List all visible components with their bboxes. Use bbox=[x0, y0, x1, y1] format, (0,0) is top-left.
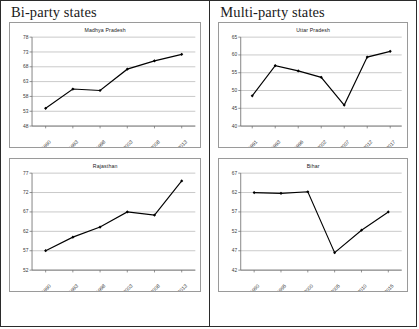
data-point-marker bbox=[297, 70, 300, 73]
y-axis-tick-label: 60 bbox=[232, 52, 238, 58]
x-axis-tick-label: 1990 bbox=[40, 283, 52, 291]
x-axis-tick-label: 2003 bbox=[122, 283, 134, 291]
y-axis-tick-label: 72 bbox=[23, 189, 29, 195]
chart-panel-uttar-pradesh: Uttar Pradesh 40455055606519911993199620… bbox=[218, 22, 408, 148]
x-axis-tick-label: 2005 bbox=[330, 283, 341, 291]
x-axis-tick-label: 2000 bbox=[303, 283, 314, 291]
figure-container: Bi-party states Madhya Pradesh 485358636… bbox=[0, 0, 417, 327]
x-axis-tick-label: 1991 bbox=[247, 139, 259, 148]
figure-columns: Bi-party states Madhya Pradesh 485358636… bbox=[1, 1, 416, 326]
y-axis-tick-label: 62 bbox=[23, 228, 29, 234]
x-axis-tick-label: 2003 bbox=[122, 139, 134, 147]
x-axis-tick-label: 1993 bbox=[67, 139, 79, 147]
group-title-bi-party: Bi-party states bbox=[1, 1, 209, 21]
y-axis-tick-label: 65 bbox=[232, 34, 238, 40]
y-axis-tick-label: 52 bbox=[232, 229, 238, 234]
y-axis-tick-label: 77 bbox=[23, 170, 29, 176]
y-axis-tick-label: 52 bbox=[23, 267, 29, 273]
x-axis-tick-label: 1995 bbox=[276, 283, 287, 291]
y-axis-tick-label: 63 bbox=[23, 78, 29, 84]
y-axis-tick-label: 62 bbox=[232, 190, 238, 195]
y-axis-tick-label: 50 bbox=[232, 87, 238, 93]
x-axis-tick-label: 2007 bbox=[339, 139, 351, 148]
chart-svg-rajasthan: 525762677277199019931998200320082013 bbox=[10, 170, 200, 291]
y-axis-tick-label: 67 bbox=[23, 209, 29, 215]
group-bi-party-states: Bi-party states Madhya Pradesh 485358636… bbox=[1, 1, 209, 326]
y-axis-tick-label: 55 bbox=[232, 69, 238, 75]
x-axis-tick-label: 2002 bbox=[316, 139, 328, 148]
x-axis-tick-label: 1993 bbox=[67, 283, 79, 291]
group-title-multi-party: Multi-party states bbox=[210, 1, 416, 21]
x-axis-tick-label: 1996 bbox=[293, 139, 305, 148]
chart-panel-madhya-pradesh: Madhya Pradesh 4853586368737819901993199… bbox=[9, 22, 201, 148]
x-axis-tick-label: 2008 bbox=[149, 139, 161, 147]
x-axis-tick-label: 2012 bbox=[362, 139, 374, 148]
chart-panel-bihar: Bihar 4247525762671990199520002005201020… bbox=[218, 158, 408, 292]
x-axis-tick-label: 2015 bbox=[384, 283, 395, 291]
x-axis-tick-label: 2008 bbox=[149, 283, 161, 291]
y-axis-tick-label: 47 bbox=[232, 248, 238, 253]
y-axis-tick-label: 58 bbox=[23, 93, 29, 99]
y-axis-tick-label: 40 bbox=[232, 123, 238, 129]
x-axis-tick-label: 1998 bbox=[95, 139, 107, 147]
chart-svg-bihar: 424752576267199019952000200520102015 bbox=[219, 170, 407, 291]
plot-area-bihar: 424752576267199019952000200520102015 bbox=[219, 170, 407, 291]
chart-svg-uttar-pradesh: 4045505560651991199319962002200720122017 bbox=[219, 34, 407, 147]
plot-area-madhya-pradesh: 48535863687378199019931998200320082013 bbox=[10, 34, 200, 147]
y-axis-tick-label: 68 bbox=[23, 63, 29, 69]
data-point-marker bbox=[153, 59, 156, 62]
y-axis-tick-label: 73 bbox=[23, 49, 29, 55]
x-axis-tick-label: 2013 bbox=[176, 283, 188, 291]
data-point-marker bbox=[180, 53, 183, 56]
x-axis-tick-label: 2010 bbox=[357, 283, 368, 291]
y-axis-tick-label: 57 bbox=[232, 210, 238, 215]
x-axis-tick-label: 1990 bbox=[250, 283, 261, 291]
chart-panel-rajasthan: Rajasthan 525762677277199019931998200320… bbox=[9, 158, 201, 292]
x-axis-tick-label: 2013 bbox=[176, 139, 188, 147]
data-point-marker bbox=[389, 50, 392, 53]
group-multi-party-states: Multi-party states Uttar Pradesh 4045505… bbox=[209, 1, 416, 326]
chart-svg-madhya-pradesh: 48535863687378199019931998200320082013 bbox=[10, 34, 200, 147]
x-axis-tick-label: 2017 bbox=[385, 139, 397, 148]
x-axis-tick-label: 1990 bbox=[40, 139, 52, 147]
y-axis-tick-label: 53 bbox=[23, 108, 29, 114]
y-axis-tick-label: 42 bbox=[232, 268, 238, 273]
x-axis-tick-label: 1993 bbox=[270, 139, 282, 148]
data-point-marker bbox=[253, 191, 256, 194]
y-axis-tick-label: 45 bbox=[232, 105, 238, 111]
plot-area-rajasthan: 525762677277199019931998200320082013 bbox=[10, 170, 200, 291]
y-axis-tick-label: 67 bbox=[232, 171, 238, 176]
x-axis-tick-label: 1998 bbox=[95, 283, 107, 291]
y-axis-tick-label: 57 bbox=[23, 247, 29, 253]
plot-area-uttar-pradesh: 4045505560651991199319962002200720122017 bbox=[219, 34, 407, 147]
y-axis-tick-label: 78 bbox=[23, 34, 29, 40]
y-axis-tick-label: 48 bbox=[23, 123, 29, 129]
